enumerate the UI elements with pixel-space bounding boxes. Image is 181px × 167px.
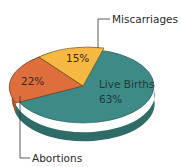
pct-miscarriages: 15% bbox=[66, 52, 89, 64]
label-miscarriages: Miscarriages bbox=[112, 13, 178, 25]
pie-chart: Miscarriages Abortions 15% 22% Live Birt… bbox=[0, 0, 181, 167]
label-abortions: Abortions bbox=[32, 152, 82, 164]
label-live-births: Live Births bbox=[99, 78, 154, 90]
callout-miscarriages bbox=[98, 19, 110, 48]
pct-live-births: 63% bbox=[99, 93, 122, 105]
pct-abortions: 22% bbox=[21, 75, 44, 87]
